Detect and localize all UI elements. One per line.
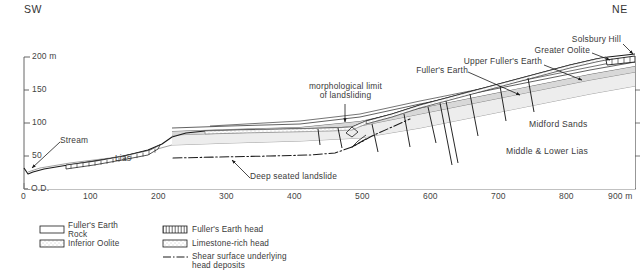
x-tick-100: 100 xyxy=(83,192,98,202)
annotation-fullers-earth: Fuller's Earth xyxy=(378,66,468,75)
legend-swatch-inferior-oolite xyxy=(40,240,64,247)
legend-label-limestone-rich-head: Limestone-rich head xyxy=(192,239,269,248)
section-right-edge xyxy=(635,62,640,189)
legend-label-fullers-earth-rock: Fuller's Earth Rock xyxy=(68,221,118,239)
annotation-midford-sands: Midford Sands xyxy=(529,120,588,130)
y-tick-od: O.D. xyxy=(31,184,49,194)
y-tick-200: 200 m xyxy=(32,52,57,62)
legend-label-shear-surface: Shear surface underlying head deposits xyxy=(192,252,287,270)
legend-label-inferior-oolite: Inferior Oolite xyxy=(68,239,119,248)
annotation-stream: Stream xyxy=(60,136,88,145)
x-tick-800: 800 xyxy=(559,192,574,202)
annotation-deep-seated-landslide: Deep seated landslide xyxy=(250,172,337,181)
x-tick-0: 0 xyxy=(21,192,26,202)
legend-swatch-limestone-rich-head xyxy=(163,240,187,247)
x-tick-400: 400 xyxy=(287,192,302,202)
x-tick-300: 300 xyxy=(219,192,234,202)
y-tick-150: 150 xyxy=(32,85,47,95)
x-tick-700: 700 xyxy=(491,192,506,202)
annotation-upper-fullers-earth: Upper Fuller's Earth xyxy=(424,57,542,66)
legend-swatch-fullers-earth-head xyxy=(163,226,187,233)
annotation-solsbury-hill: Solsbury Hill xyxy=(545,35,621,44)
legend-label-fullers-earth-head: Fuller's Earth head xyxy=(192,225,263,234)
x-tick-200: 200 xyxy=(151,192,166,202)
legend-swatch-fullers-earth-rock xyxy=(40,226,64,233)
compass-label-ne: NE xyxy=(612,4,628,16)
annotation-greater-oolite: Greater Oolite xyxy=(508,46,590,55)
y-tick-100: 100 xyxy=(32,118,47,128)
compass-label-sw: SW xyxy=(24,4,42,16)
annotation-middle-lower-lias: Middle & Lower Lias xyxy=(506,147,588,157)
annotation-morphological-limit: morphological limit of landsliding xyxy=(303,82,388,101)
x-tick-900: 900 m xyxy=(608,192,633,202)
annotation-lias: Lias xyxy=(115,154,131,163)
y-tick-50: 50 xyxy=(32,151,42,161)
x-tick-600: 600 xyxy=(423,192,438,202)
x-tick-500: 500 xyxy=(355,192,370,202)
